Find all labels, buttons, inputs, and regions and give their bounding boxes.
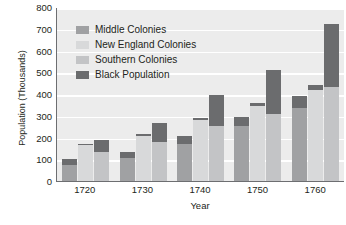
bar-segment-black-population	[292, 96, 307, 108]
y-tick-label: 0	[18, 177, 52, 187]
bar-segment-black-population	[234, 117, 249, 126]
bar	[250, 103, 265, 181]
bar-segment-base	[177, 144, 192, 181]
bar	[209, 95, 224, 181]
y-tick-label: 300	[18, 112, 52, 122]
chart-legend: Middle ColoniesNew England ColoniesSouth…	[76, 22, 196, 82]
bar-segment-base	[266, 114, 281, 181]
bar-segment-base	[292, 108, 307, 181]
bar	[136, 134, 151, 181]
legend-item: Southern Colonies	[76, 52, 196, 67]
bar-segment-black-population	[94, 140, 109, 152]
y-tick-label: 800	[18, 3, 52, 13]
y-tick-label: 600	[18, 47, 52, 57]
bar-segment-base	[193, 120, 208, 181]
x-tick-label: 1730	[114, 184, 172, 198]
legend-label: Black Population	[95, 69, 170, 80]
x-tick-label: 1750	[229, 184, 287, 198]
bar	[62, 159, 77, 181]
x-tick-label: 1720	[56, 184, 114, 198]
population-bar-chart: Population (Thousands) 01002003004005006…	[0, 0, 346, 225]
bar	[94, 140, 109, 181]
bar	[177, 136, 192, 181]
bar-segment-base	[120, 158, 135, 181]
bar	[266, 70, 281, 181]
bar	[292, 96, 307, 181]
bar-segment-base	[136, 136, 151, 181]
bar-segment-black-population	[152, 123, 167, 141]
bar-segment-black-population	[266, 70, 281, 114]
bar-segment-base	[152, 142, 167, 181]
bar	[308, 85, 323, 181]
legend-item: Black Population	[76, 67, 196, 82]
bar-segment-base	[209, 126, 224, 181]
legend-item: New England Colonies	[76, 37, 196, 52]
y-tick-label: 100	[18, 156, 52, 166]
bar	[324, 24, 339, 181]
bar-group	[287, 8, 344, 181]
y-axis-tick-labels: 0100200300400500600700800	[18, 8, 52, 182]
legend-item: Middle Colonies	[76, 22, 196, 37]
bar-segment-base	[94, 152, 109, 181]
bar	[120, 152, 135, 181]
x-tick-label: 1760	[286, 184, 344, 198]
bar-segment-base	[324, 87, 339, 181]
y-tick-label: 400	[18, 90, 52, 100]
bar-segment-base	[78, 145, 93, 181]
bar-segment-base	[234, 126, 249, 181]
bar-segment-base	[308, 90, 323, 181]
bar-group	[229, 8, 286, 181]
y-tick-label: 700	[18, 25, 52, 35]
legend-label: Middle Colonies	[95, 24, 166, 35]
bar-segment-base	[250, 106, 265, 181]
legend-swatch-icon	[76, 71, 89, 79]
bar	[78, 144, 93, 181]
bar	[234, 117, 249, 181]
y-tick-label: 500	[18, 69, 52, 79]
legend-swatch-icon	[76, 56, 89, 64]
legend-swatch-icon	[76, 41, 89, 49]
bar	[152, 123, 167, 181]
bar-segment-black-population	[209, 95, 224, 125]
x-axis-tick-labels: 17201730174017501760	[56, 184, 344, 198]
y-tick-label: 200	[18, 134, 52, 144]
legend-label: Southern Colonies	[95, 54, 177, 65]
x-tick-label: 1740	[171, 184, 229, 198]
bar	[193, 118, 208, 181]
bar-segment-black-population	[177, 136, 192, 144]
x-axis-title: Year	[56, 200, 344, 211]
bar-segment-black-population	[324, 24, 339, 87]
legend-swatch-icon	[76, 26, 89, 34]
bar-segment-base	[62, 165, 77, 181]
legend-label: New England Colonies	[95, 39, 196, 50]
